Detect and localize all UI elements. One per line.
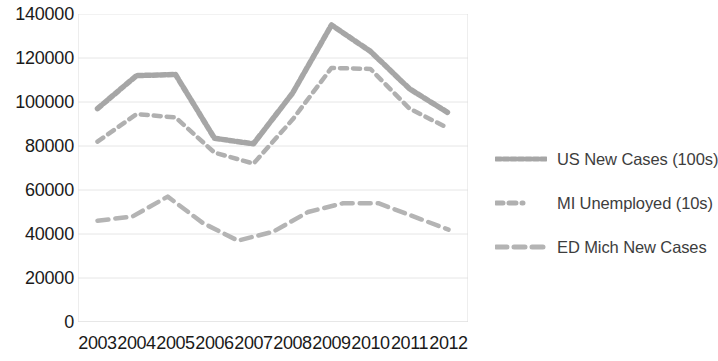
x-axis-tick-label: 2004 <box>117 334 155 352</box>
y-axis-tick-label: 80000 <box>2 137 74 155</box>
y-axis-tick-label: 100000 <box>2 93 74 111</box>
short-dotted-line-icon <box>495 196 547 210</box>
legend-label: MI Unemployed (10s) <box>557 194 713 213</box>
y-axis: 020000400006000080000100000120000140000 <box>0 0 74 361</box>
legend-label: ED Mich New Cases <box>557 238 707 257</box>
dashed-line-icon <box>495 240 547 254</box>
legend-label: US New Cases (100s) <box>557 150 718 169</box>
x-axis-tick-label: 2010 <box>351 334 389 352</box>
x-axis-tick-label: 2009 <box>312 334 350 352</box>
x-axis-tick-label: 2007 <box>234 334 272 352</box>
chart-legend: US New Cases (100s)MI Unemployed (10s)ED… <box>495 148 710 258</box>
y-axis-tick-label: 40000 <box>2 225 74 243</box>
x-axis: 2003200420052006200720082009201020112012 <box>78 330 468 358</box>
y-axis-tick-label: 20000 <box>2 269 74 287</box>
y-axis-tick-label: 0 <box>2 313 74 331</box>
x-axis-tick-label: 2005 <box>156 334 194 352</box>
legend-item[interactable]: US New Cases (100s) <box>495 148 718 170</box>
series-line <box>98 25 449 144</box>
x-axis-tick-label: 2006 <box>195 334 233 352</box>
x-axis-tick-label: 2012 <box>429 334 467 352</box>
legend-item[interactable]: MI Unemployed (10s) <box>495 192 713 214</box>
x-axis-tick-label: 2003 <box>78 334 116 352</box>
dotted-line-icon <box>495 152 547 166</box>
x-axis-tick-label: 2011 <box>391 334 428 352</box>
y-axis-tick-label: 60000 <box>2 181 74 199</box>
x-axis-tick-label: 2008 <box>273 334 311 352</box>
y-axis-tick-label: 120000 <box>2 49 74 67</box>
plot-area <box>78 14 468 322</box>
legend-item[interactable]: ED Mich New Cases <box>495 236 707 258</box>
y-axis-tick-label: 140000 <box>2 5 74 23</box>
chart-canvas <box>78 14 468 322</box>
